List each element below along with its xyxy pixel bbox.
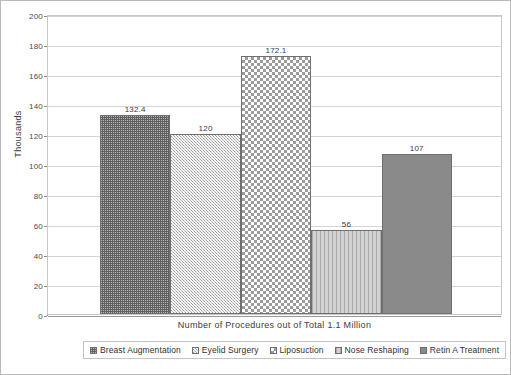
legend-item-retin-a-treatment[interactable]: Retin A Treatment — [420, 345, 499, 355]
plot-area: 132.4120172.156107 — [47, 15, 502, 315]
bar-value-label: 132.4 — [125, 105, 146, 114]
plot-inner: 132.4120172.156107 — [48, 16, 501, 314]
bar-retin-a-treatment[interactable] — [382, 154, 452, 315]
chart-legend: Breast AugmentationEyelid SurgeryLiposuc… — [83, 341, 506, 359]
legend-item-label: Eyelid Surgery — [202, 345, 259, 355]
bar-liposuction[interactable] — [241, 56, 311, 314]
legend-item-label: Breast Augmentation — [100, 345, 181, 355]
legend-swatch-icon — [192, 347, 199, 354]
legend-item-liposuction[interactable]: Liposuction — [270, 345, 324, 355]
bar-value-label: 120 — [199, 124, 213, 133]
y-axis-tick-mark — [44, 316, 47, 317]
legend-swatch-icon — [420, 347, 427, 354]
y-axis-tick-marks — [1, 15, 47, 315]
bar-eyelid-surgery[interactable] — [170, 134, 240, 314]
bar-nose-reshaping[interactable] — [311, 230, 381, 314]
legend-swatch-icon — [335, 347, 342, 354]
gridline — [48, 316, 501, 317]
legend-item-label: Retin A Treatment — [430, 345, 499, 355]
x-axis-title: Number of Procedures out of Total 1.1 Mi… — [47, 320, 502, 330]
legend-item-label: Liposuction — [280, 345, 324, 355]
bar-value-label: 56 — [342, 220, 351, 229]
legend-item-eyelid-surgery[interactable]: Eyelid Surgery — [192, 345, 259, 355]
legend-swatch-icon — [270, 347, 277, 354]
bar-breast-augmentation[interactable] — [100, 115, 170, 314]
legend-item-breast-augmentation[interactable]: Breast Augmentation — [90, 345, 181, 355]
bar-value-label: 107 — [410, 144, 424, 153]
bar-value-label: 172.1 — [265, 46, 286, 55]
gridline — [48, 16, 501, 17]
legend-item-nose-reshaping[interactable]: Nose Reshaping — [335, 345, 409, 355]
legend-item-label: Nose Reshaping — [345, 345, 409, 355]
bar-chart-figure: Thousands 020406080100120140160180200 13… — [0, 0, 511, 375]
legend-swatch-icon — [90, 347, 97, 354]
